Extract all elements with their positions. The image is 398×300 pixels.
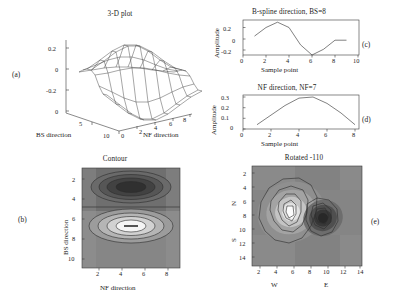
panel-d-line-svg (199, 78, 398, 150)
panel-d-nf-plot: NF direction, NF=7 (d) Amplitude Sample … (199, 78, 398, 150)
panel-e-rotated-contour-plot: Rotated -110 (e) N S W E 2 4 6 8 10 12 1… (199, 150, 398, 300)
panel-c-bspline-plot: B-spline direction, BS=8 (c) Amplitude S… (199, 0, 398, 78)
panel-a-surface-svg (0, 0, 199, 150)
panel-b-contour-plot: Contour (b) BS direction NF direction 2 … (0, 150, 199, 300)
panel-a-3d-plot: 3-D plot (a) 0.2 0 -0.2 0 5 10 0 2 4 6 8… (0, 0, 199, 150)
panel-c-line-svg (199, 0, 398, 78)
panel-e-contour-svg (199, 150, 398, 300)
panel-b-contour-svg (0, 150, 199, 300)
